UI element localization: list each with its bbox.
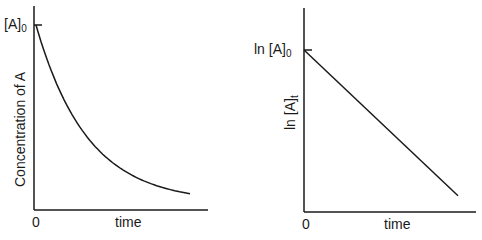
right-y-tick-main: ln [A] [254, 41, 286, 57]
left-y-axis-label: Concentration of A [12, 72, 28, 187]
right-y-tick-label: ln [A]0 [254, 41, 291, 59]
left-x-axis-label: time [115, 214, 141, 230]
left-y-tick-label: [A]0 [4, 16, 27, 34]
charts-canvas [0, 0, 482, 240]
linear-decrease-line [304, 50, 458, 196]
left-y-tick-sub: 0 [21, 23, 27, 34]
right-x-axis-label: time [384, 216, 410, 232]
right-y-label-sub: t [289, 95, 300, 98]
right-y-tick-sub: 0 [286, 48, 292, 59]
right-y-label-main: ln [A] [282, 98, 298, 130]
right-y-axis-label: ln [A]t [282, 95, 300, 130]
exponential-decay-curve [36, 25, 190, 194]
left-y-tick-main: [A] [4, 16, 21, 32]
left-x-tick-zero: 0 [32, 214, 40, 230]
right-x-tick-zero: 0 [302, 216, 310, 232]
